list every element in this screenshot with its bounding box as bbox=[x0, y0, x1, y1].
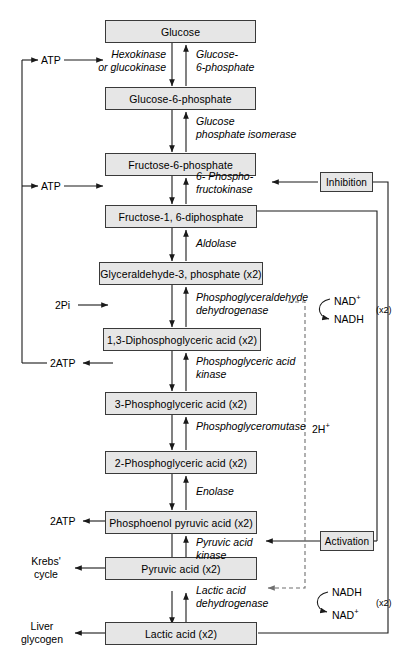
enzyme-label-lactic-acid-dehydrogenase: Lactic acid dehydrogenase bbox=[196, 584, 268, 610]
enzyme-line-1: Phosphoglyceric acid bbox=[196, 355, 295, 368]
label-krebs-cycle: Krebs' cycle bbox=[18, 555, 74, 580]
enzyme-line-1: Phosphoglyceraldehyde bbox=[196, 291, 308, 304]
charge-superscript: + bbox=[356, 293, 360, 302]
cofactor-label-nad-plus-upper: NAD+ bbox=[334, 292, 361, 307]
label-liver-glycogen: Liver glycogen bbox=[10, 620, 74, 645]
charge-superscript: + bbox=[325, 421, 329, 430]
label-2atp-output-pk: 2ATP bbox=[50, 515, 75, 528]
enzyme-line-2: fructokinase bbox=[196, 183, 253, 196]
cofactor-multiplier-lower: (x2) bbox=[376, 597, 392, 610]
enzyme-line-2: dehydrogenase bbox=[196, 597, 268, 610]
label-atp-input-phosphofructokinase: ATP bbox=[41, 180, 61, 193]
metabolite-box-glyceraldehyde-3-phosphate: Glyceraldehyde-3, phosphate (x2) bbox=[99, 262, 263, 285]
enzyme-label-enolase: Enolase bbox=[196, 485, 234, 498]
metabolite-label: Glyceraldehyde-3, phosphate (x2) bbox=[100, 268, 261, 280]
liver-line-2: glycogen bbox=[10, 633, 74, 646]
enzyme-line-2: dehydrogenase bbox=[196, 304, 308, 317]
cofactor-label-nadh-lower: NADH bbox=[332, 586, 362, 599]
enzyme-label-phosphoglyceromutase: Phosphoglyceromutase bbox=[196, 420, 306, 433]
enzyme-line-2: 6-phosphate bbox=[196, 61, 254, 74]
metabolite-box-3-phosphoglyceric-acid: 3-Phosphoglyceric acid (x2) bbox=[105, 392, 257, 415]
cofactor-multiplier-upper: (x2) bbox=[376, 304, 392, 317]
regulator-box-inhibition: Inhibition bbox=[320, 172, 373, 192]
enzyme-line-2: or glucokinase bbox=[48, 61, 166, 74]
enzyme-line-1: Glucose- bbox=[196, 48, 254, 61]
cofactor-label-nad-plus-lower: NAD+ bbox=[332, 606, 359, 621]
metabolite-label: Lactic acid (x2) bbox=[145, 628, 217, 640]
liver-line-1: Liver bbox=[10, 620, 74, 633]
enzyme-label-phosphofructokinase: 6- Phospho- fructokinase bbox=[196, 170, 253, 196]
enzyme-label-glucose-phosphate-isomerase: Glucose phosphate isomerase bbox=[196, 115, 296, 141]
enzyme-line-1: Aldolase bbox=[196, 237, 236, 250]
enzyme-label-phosphoglyceraldehyde-dehydrogenase: Phosphoglyceraldehyde dehydrogenase bbox=[196, 291, 308, 317]
metabolite-box-glucose: Glucose bbox=[105, 20, 256, 43]
enzyme-line-2: kinase bbox=[196, 368, 295, 381]
enzyme-line-1: Hexokinase bbox=[48, 48, 166, 61]
metabolite-box-fructose-1-6-diphosphate: Fructose-1, 6-diphosphate bbox=[105, 205, 257, 228]
enzyme-label-aldolase: Aldolase bbox=[196, 237, 236, 250]
krebs-line-1: Krebs' bbox=[18, 555, 74, 568]
enzyme-line-1: Lactic acid bbox=[196, 584, 268, 597]
regulator-label: Activation bbox=[325, 536, 369, 547]
enzyme-line-1: Phosphoglyceromutase bbox=[196, 420, 306, 433]
glycolysis-diagram: Glucose Glucose-6-phosphate Fructose-6-p… bbox=[0, 0, 404, 659]
metabolite-box-2-phosphoglyceric-acid: 2-Phosphoglyceric acid (x2) bbox=[105, 451, 257, 474]
metabolite-label: Pyruvic acid (x2) bbox=[141, 563, 220, 575]
krebs-line-2: cycle bbox=[18, 568, 74, 581]
metabolite-label: 3-Phosphoglyceric acid (x2) bbox=[115, 398, 247, 410]
enzyme-label-hexokinase: Hexokinase or glucokinase bbox=[48, 48, 166, 74]
regulator-label: Inhibition bbox=[326, 177, 367, 188]
label-2atp-output-pgk: 2ATP bbox=[50, 357, 75, 370]
metabolite-label: 2-Phosphoglyceric acid (x2) bbox=[115, 457, 247, 469]
metabolite-label: 1,3-Diphosphoglyceric acid (x2) bbox=[107, 334, 257, 346]
metabolite-box-1-3-diphosphoglyceric-acid: 1,3-Diphosphoglyceric acid (x2) bbox=[103, 328, 261, 351]
metabolite-box-lactic-acid: Lactic acid (x2) bbox=[105, 622, 257, 645]
enzyme-label-glucose-6-phosphate: Glucose- 6-phosphate bbox=[196, 48, 254, 74]
metabolite-box-glucose-6-phosphate: Glucose-6-phosphate bbox=[105, 87, 256, 110]
label-2h-protons: 2H+ bbox=[312, 420, 330, 435]
enzyme-label-phosphoglyceric-acid-kinase: Phosphoglyceric acid kinase bbox=[196, 355, 295, 381]
enzyme-label-pyruvic-acid-kinase: Pyruvic acid kinase bbox=[196, 536, 253, 562]
metabolite-box-phosphoenol-pyruvic-acid: Phosphoenol pyruvic acid (x2) bbox=[105, 511, 257, 534]
metabolite-label: Phosphoenol pyruvic acid (x2) bbox=[109, 517, 253, 529]
regulator-box-activation: Activation bbox=[320, 531, 374, 551]
cofactor-label-nadh-upper: NADH bbox=[334, 313, 364, 326]
metabolite-label: Glucose bbox=[161, 26, 200, 38]
charge-superscript: + bbox=[354, 607, 358, 616]
enzyme-line-1: Glucose bbox=[196, 115, 296, 128]
metabolite-label: Fructose-6-phosphate bbox=[128, 159, 233, 171]
label-atp-input-hexokinase: ATP bbox=[41, 54, 61, 67]
metabolite-label: Glucose-6-phosphate bbox=[129, 93, 231, 105]
enzyme-line-1: Pyruvic acid bbox=[196, 536, 253, 549]
label-2pi-input: 2Pi bbox=[55, 299, 70, 312]
metabolite-label: Fructose-1, 6-diphosphate bbox=[118, 211, 243, 223]
enzyme-line-2: phosphate isomerase bbox=[196, 128, 296, 141]
enzyme-line-1: 6- Phospho- bbox=[196, 170, 253, 183]
enzyme-line-1: Enolase bbox=[196, 485, 234, 498]
enzyme-line-2: kinase bbox=[196, 549, 253, 562]
